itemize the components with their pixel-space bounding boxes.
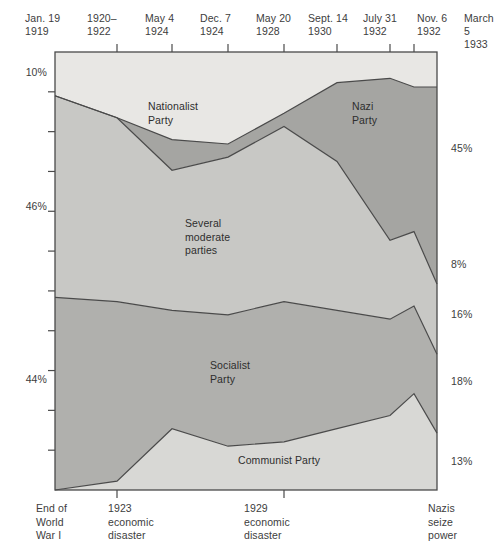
stacked-area-chart: Jan. 19 19191920– 1922May 4 1924Dec. 7 1… <box>0 0 494 549</box>
band-label-nationalist: Nationalist Party <box>148 100 198 127</box>
band-label-communist: Communist Party <box>238 454 320 468</box>
bottom-caption-2: 1929 economic disaster <box>244 502 290 543</box>
band-label-nazi: Nazi Party <box>352 100 377 127</box>
band-label-socialist: Socialist Party <box>210 359 250 386</box>
band-label-moderate: Several moderate parties <box>185 217 230 258</box>
bottom-caption-3: Nazis seize power <box>428 502 457 543</box>
bottom-caption-0: End of World War I <box>36 502 67 543</box>
bottom-caption-1: 1923 economic disaster <box>108 502 154 543</box>
area-bands <box>55 52 437 490</box>
